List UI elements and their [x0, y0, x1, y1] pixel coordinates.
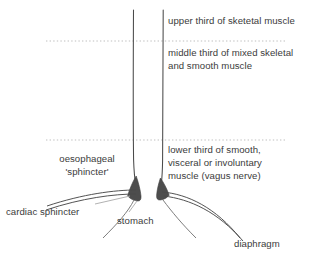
diagram-canvas: upper third of sketetal muscle middle th…	[0, 0, 322, 260]
label-middle-third-line1: middle third of mixed skeletal	[168, 47, 293, 58]
oesophagus-right-wall	[161, 10, 163, 183]
label-middle-third-line2: and smooth muscle	[168, 60, 252, 71]
label-upper-third: upper third of sketetal muscle	[168, 14, 295, 27]
label-lower-third-line1: lower third of smooth,	[168, 144, 261, 155]
label-oesophageal-sphincter: oesophageal 'sphincter'	[38, 152, 136, 178]
label-cardiac-sphincter: cardiac sphincter	[6, 205, 79, 218]
label-diaphragm: diaphragm	[234, 237, 280, 250]
cardiac-sphincter-wedge-left	[128, 176, 141, 201]
label-middle-third: middle third of mixed skeletal and smoot…	[168, 46, 293, 72]
label-stomach: stomach	[117, 214, 154, 227]
label-lower-third-line2: visceral or involuntary	[168, 157, 262, 168]
diaphragm-right-outer	[162, 192, 240, 238]
label-oesophageal-line2: 'sphincter'	[65, 166, 108, 177]
oesophagus-diagram	[0, 0, 322, 260]
label-lower-third-line3: muscle (vagus nerve)	[168, 170, 261, 181]
label-lower-third: lower third of smooth, visceral or invol…	[168, 143, 262, 183]
stomach-wall-right	[163, 200, 196, 238]
label-oesophageal-line1: oesophageal	[59, 153, 115, 164]
diaphragm-right-inner	[164, 196, 244, 241]
